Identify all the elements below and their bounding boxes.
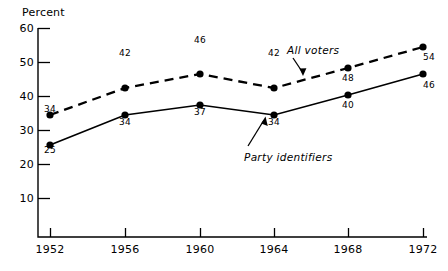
chart-container: Percent 60 50 40 30 20 10 1952 1956 1960…	[0, 0, 448, 271]
data-point-all-voters-1972	[419, 43, 426, 50]
annotation-arrow-all-voters	[293, 58, 306, 76]
data-point-all-voters-1956	[121, 84, 128, 91]
x-axis-ticks	[51, 228, 424, 237]
data-point-party-identifiers-1956	[121, 111, 128, 118]
series-line-party-identifiers	[50, 74, 423, 145]
plot-canvas	[0, 0, 448, 271]
data-point-all-voters-1960	[196, 70, 203, 77]
annotation-arrow-party-identifiers	[248, 117, 268, 147]
data-point-all-voters-1964	[270, 84, 277, 91]
data-point-party-identifiers-1964	[270, 111, 277, 118]
data-point-party-identifiers-1972	[419, 70, 426, 77]
data-point-all-voters-1952	[46, 111, 53, 118]
series-line-all-voters	[50, 47, 423, 115]
axis-spines	[38, 28, 427, 237]
series-markers-all-voters	[46, 43, 426, 118]
data-point-party-identifiers-1968	[344, 91, 351, 98]
data-point-party-identifiers-1952	[46, 141, 53, 148]
data-point-all-voters-1968	[344, 64, 351, 71]
data-point-party-identifiers-1960	[196, 101, 203, 108]
